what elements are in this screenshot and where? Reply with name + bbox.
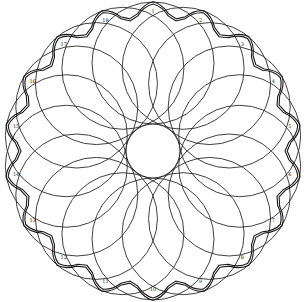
circle-number-label: 1 xyxy=(151,8,154,14)
circle-number-label: 4 xyxy=(272,78,275,84)
circle-number-label: 8 xyxy=(241,254,244,260)
rosette-circle xyxy=(16,134,138,256)
rosette-circle xyxy=(168,46,290,168)
circle-number-label: 13 xyxy=(29,217,35,223)
circle-number-label: 9 xyxy=(199,278,202,284)
circle-number-label: 17 xyxy=(60,41,66,47)
circle-number-label: 18 xyxy=(102,17,108,23)
circle-number-label: 6 xyxy=(288,171,291,177)
rosette-circle xyxy=(179,75,301,197)
rosette-circle xyxy=(179,105,301,227)
rosette-circle xyxy=(122,173,244,295)
rosette-circle xyxy=(5,75,127,197)
circle-number-label: 5 xyxy=(288,123,291,129)
center-circle xyxy=(126,124,180,178)
circle-number-label: 12 xyxy=(60,254,66,260)
rosette-circle xyxy=(62,173,184,295)
circle-number-label: 2 xyxy=(199,17,202,23)
circle-number-label: 11 xyxy=(102,278,108,284)
rosette-circle xyxy=(122,7,244,129)
circle-number-label: 7 xyxy=(272,217,275,223)
rosette-circle xyxy=(5,105,127,227)
rosette-diagram: 123456789101112131415161718 xyxy=(0,0,305,302)
rosette-circle xyxy=(168,134,290,256)
circle-number-label: 16 xyxy=(29,78,35,84)
rosette-circle xyxy=(16,46,138,168)
rosette-circle xyxy=(62,7,184,129)
circle-number-label: 14 xyxy=(13,171,19,177)
circle-number-label: 15 xyxy=(13,123,19,129)
circle-number-label: 3 xyxy=(241,41,244,47)
circle-number-label: 10 xyxy=(150,286,156,292)
